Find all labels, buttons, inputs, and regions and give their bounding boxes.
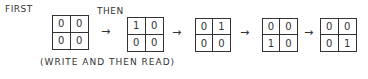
grid-cell: 0 — [71, 16, 89, 33]
grid-cell: 0 — [128, 35, 146, 52]
then-label: THEN — [97, 6, 124, 16]
grid-cell: 1 — [213, 19, 230, 35]
grid-cell: 0 — [196, 35, 213, 51]
arrow-icon: → — [101, 25, 110, 38]
grid-state-3: 0 1 0 0 — [195, 18, 231, 52]
grid-state-1: 0 0 0 0 — [52, 15, 89, 50]
grid-cell: 0 — [339, 19, 357, 35]
grid-cell: 0 — [53, 16, 71, 33]
arrow-icon: → — [304, 26, 313, 39]
grid-cell: 0 — [321, 35, 339, 51]
grid-cell: 0 — [53, 33, 71, 50]
grid-cell: 0 — [280, 19, 297, 35]
grid-cell: 1 — [339, 35, 357, 51]
grid-state-5: 0 0 0 1 — [320, 18, 357, 52]
grid-state-2: 1 0 0 0 — [127, 17, 164, 52]
grid-cell: 0 — [213, 35, 230, 51]
grid-cell: 0 — [71, 33, 89, 50]
grid-cell: 0 — [280, 35, 297, 51]
first-label: FIRST — [5, 4, 33, 14]
arrow-icon: → — [172, 26, 181, 39]
grid-cell: 0 — [321, 19, 339, 35]
grid-cell: 0 — [196, 19, 213, 35]
grid-state-4: 0 0 1 0 — [262, 18, 298, 52]
grid-cell: 0 — [146, 35, 164, 52]
caption: (WRITE AND THEN READ) — [40, 57, 175, 67]
grid-cell: 1 — [263, 35, 280, 51]
grid-cell: 0 — [263, 19, 280, 35]
arrow-icon: → — [240, 26, 249, 39]
grid-cell: 1 — [128, 18, 146, 35]
grid-cell: 0 — [146, 18, 164, 35]
